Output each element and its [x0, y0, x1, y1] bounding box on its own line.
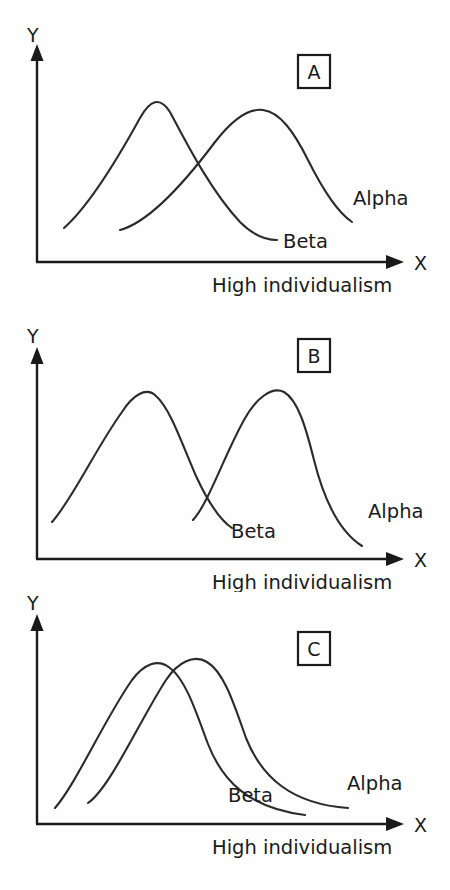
curve-label-beta-b: Beta — [231, 520, 276, 543]
y-axis-arrow-icon — [31, 614, 44, 631]
y-axis-arrow-icon — [31, 44, 44, 61]
curve-alpha-c — [88, 659, 348, 808]
panel-badge-letter-c: C — [307, 638, 320, 660]
x-axis-label-a: X — [414, 252, 427, 274]
y-axis-label-b: Y — [26, 325, 39, 347]
curve-alpha-b — [193, 390, 362, 546]
figure-root: Y X Alpha Beta High individualism A — [0, 0, 450, 890]
panel-badge-c: C — [298, 632, 330, 665]
panel-badge-b: B — [298, 339, 330, 372]
curve-alpha-a — [120, 110, 352, 230]
x-axis-label-c: X — [414, 814, 427, 836]
x-axis-label-b: X — [414, 549, 427, 571]
curve-label-alpha-c: Alpha — [347, 772, 402, 795]
y-axis-a — [31, 44, 44, 262]
curve-beta-b — [52, 392, 232, 528]
x-axis-arrow-icon — [386, 552, 404, 566]
panel-badge-a: A — [298, 55, 330, 88]
x-axis-a — [36, 255, 404, 269]
y-axis-arrow-icon — [31, 347, 44, 364]
x-axis-c — [36, 817, 404, 831]
y-axis-c — [31, 614, 44, 824]
x-axis-arrow-icon — [386, 817, 404, 831]
curve-label-alpha-b: Alpha — [368, 500, 423, 523]
chart-panel-a: Y X Alpha Beta High individualism A — [0, 0, 450, 296]
caption-c: High individualism — [212, 836, 392, 859]
x-axis-arrow-icon — [386, 255, 404, 269]
y-axis-label-a: Y — [26, 24, 39, 46]
chart-panel-c: Y X Alpha Beta High individualism C — [0, 592, 450, 888]
y-axis-b — [31, 347, 44, 559]
caption-a: High individualism — [212, 274, 392, 296]
x-axis-b — [36, 552, 404, 566]
chart-panel-b: Y X Alpha Beta High individualism B — [0, 296, 450, 592]
caption-b: High individualism — [212, 571, 392, 592]
panel-badge-letter-b: B — [307, 345, 320, 367]
curve-beta-a — [64, 102, 277, 240]
panel-badge-letter-a: A — [308, 61, 321, 83]
curve-label-beta-a: Beta — [283, 230, 328, 253]
curve-label-alpha-a: Alpha — [353, 187, 408, 210]
curve-label-beta-c: Beta — [228, 784, 273, 807]
y-axis-label-c: Y — [26, 592, 39, 614]
